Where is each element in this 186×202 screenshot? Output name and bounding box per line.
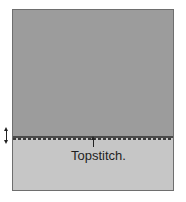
seam-allowance-measure-icon bbox=[4, 127, 8, 144]
pointer-arrow-icon bbox=[93, 139, 94, 147]
upper-fabric-layer bbox=[13, 10, 173, 137]
arrow-down-icon bbox=[4, 140, 8, 144]
fabric-panel bbox=[12, 9, 174, 191]
topstitch-label: Topstitch. bbox=[71, 148, 126, 163]
